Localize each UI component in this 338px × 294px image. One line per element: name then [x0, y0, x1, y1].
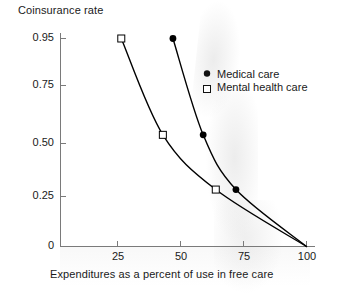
y-tick-label-0: 0: [20, 239, 54, 251]
x-tick-label-100: 100: [292, 250, 322, 262]
legend-marker-mental-health-care: [204, 86, 211, 93]
legend-markers: [204, 70, 211, 92]
x-axis-ticks: [118, 241, 307, 247]
data-point-mental-health-care-1: [159, 131, 166, 138]
legend-label-mental-health-care: Mental health care: [217, 81, 308, 93]
chart-figure: Coinsurance rate Expenditures as a perce…: [0, 0, 338, 294]
y-axis-ticks: [61, 39, 67, 197]
x-tick-label-50: 50: [166, 250, 196, 262]
y-tick-label-025: 0.25: [20, 189, 54, 201]
y-tick-label-095: 0.95: [20, 31, 54, 43]
y-tick-label-050: 0.50: [20, 136, 54, 148]
x-tick-label-75: 75: [229, 250, 259, 262]
y-tick-label-075: 0.75: [20, 78, 54, 90]
legend-marker-medical-care: [204, 70, 210, 76]
legend-label-medical-care: Medical care: [217, 68, 279, 80]
data-point-mental-health-care-0: [118, 35, 125, 42]
data-point-medical-care-2: [233, 186, 240, 193]
x-axis-title: Expenditures as a percent of use in free…: [50, 268, 273, 280]
data-point-medical-care-0: [170, 35, 177, 42]
data-point-mental-health-care-2: [212, 186, 219, 193]
data-series-layer: [118, 35, 307, 247]
data-point-medical-care-1: [200, 131, 207, 138]
y-axis-title: Coinsurance rate: [18, 4, 103, 16]
x-tick-label-25: 25: [103, 250, 133, 262]
